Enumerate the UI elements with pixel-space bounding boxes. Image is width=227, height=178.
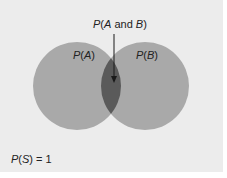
intersection-label: P(A and B) — [93, 18, 147, 30]
sample-space-label: P(S) = 1 — [11, 153, 52, 165]
venn-diagram: P(A and B) P(A) P(B) P(S) = 1 — [0, 0, 227, 178]
set-a-label: P(A) — [73, 49, 95, 61]
set-b-label: P(B) — [136, 49, 158, 61]
